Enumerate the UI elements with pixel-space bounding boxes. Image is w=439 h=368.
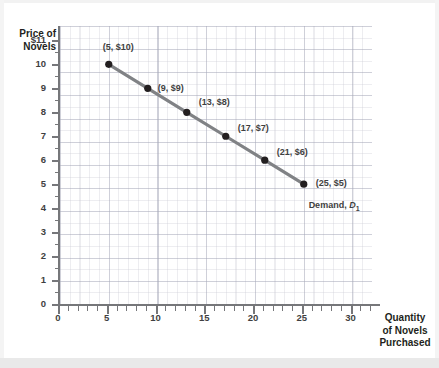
y-tick-label: 9 bbox=[2, 84, 46, 94]
x-tick-label: 30 bbox=[331, 313, 371, 323]
y-tick-minor bbox=[55, 172, 60, 173]
x-tick-minor bbox=[331, 306, 332, 311]
y-tick-major bbox=[52, 208, 60, 210]
data-point-label: (5, $10) bbox=[103, 43, 134, 52]
y-tick-label: 2 bbox=[2, 251, 46, 261]
x-tick-minor bbox=[273, 306, 274, 311]
x-tick-minor bbox=[370, 306, 371, 311]
y-tick-minor bbox=[55, 52, 60, 53]
y-tick-label: 4 bbox=[2, 203, 46, 213]
demand-curve-figure: Price of Novels Quantity of Novels Purch… bbox=[0, 0, 439, 368]
data-point-marker bbox=[183, 109, 190, 116]
data-point-marker bbox=[105, 61, 112, 68]
y-tick-major bbox=[52, 136, 60, 138]
y-tick-major bbox=[52, 256, 60, 258]
data-point-label: (9, $9) bbox=[158, 84, 184, 93]
data-point-marker bbox=[261, 157, 268, 164]
y-tick-major bbox=[52, 40, 60, 42]
y-tick-label: 3 bbox=[2, 227, 46, 237]
y-tick-minor bbox=[55, 196, 60, 197]
data-point-marker bbox=[300, 181, 307, 188]
x-tick-minor bbox=[282, 306, 283, 311]
x-tick-minor bbox=[175, 306, 176, 311]
x-tick-minor bbox=[97, 306, 98, 311]
data-point-label: (21, $6) bbox=[277, 148, 308, 157]
y-tick-minor bbox=[55, 244, 60, 245]
x-tick-label: 15 bbox=[184, 313, 224, 323]
x-tick-label: 20 bbox=[233, 313, 273, 323]
y-axis-tick-labels: 012345678910$11 bbox=[0, 26, 46, 306]
y-tick-label: 0 bbox=[2, 299, 46, 309]
y-tick-major bbox=[52, 88, 60, 90]
y-tick-major bbox=[52, 184, 60, 186]
demand-line bbox=[109, 64, 304, 184]
x-tick-label: 10 bbox=[136, 313, 176, 323]
y-tick-label: $11 bbox=[2, 36, 46, 46]
y-tick-label: 7 bbox=[2, 131, 46, 141]
x-tick-minor bbox=[117, 306, 118, 311]
x-tick-minor bbox=[321, 306, 322, 311]
x-tick-minor bbox=[214, 306, 215, 311]
y-tick-minor bbox=[55, 148, 60, 149]
y-tick-minor bbox=[55, 76, 60, 77]
x-tick-minor bbox=[87, 306, 88, 311]
page-edge-top bbox=[0, 0, 439, 3]
demand-series bbox=[60, 26, 372, 304]
x-tick-minor bbox=[224, 306, 225, 311]
y-tick-major bbox=[52, 112, 60, 114]
x-tick-minor bbox=[341, 306, 342, 311]
x-tick-minor bbox=[243, 306, 244, 311]
y-tick-major bbox=[52, 232, 60, 234]
x-tick-minor bbox=[360, 306, 361, 311]
y-tick-minor bbox=[55, 292, 60, 293]
data-point-label: (13, $8) bbox=[199, 98, 230, 107]
x-tick-minor bbox=[185, 306, 186, 311]
x-tick-label: 0 bbox=[38, 313, 78, 323]
x-tick-minor bbox=[146, 306, 147, 311]
page-edge-bottom bbox=[0, 358, 439, 368]
y-tick-label: 10 bbox=[2, 60, 46, 70]
y-axis-ticks bbox=[48, 26, 60, 306]
y-tick-minor bbox=[55, 100, 60, 101]
x-tick-minor bbox=[263, 306, 264, 311]
x-tick-minor bbox=[234, 306, 235, 311]
x-tick-minor bbox=[312, 306, 313, 311]
x-tick-minor bbox=[126, 306, 127, 311]
x-tick-minor bbox=[68, 306, 69, 311]
y-tick-label: 6 bbox=[2, 155, 46, 165]
x-tick-label: 5 bbox=[87, 313, 127, 323]
data-point-marker bbox=[222, 133, 229, 140]
x-tick-label: 25 bbox=[282, 313, 322, 323]
y-tick-label: 1 bbox=[2, 275, 46, 285]
x-tick-minor bbox=[292, 306, 293, 311]
data-point-label: (25, $5) bbox=[316, 179, 347, 188]
data-point-marker bbox=[144, 85, 151, 92]
data-point-label: (17, $7) bbox=[238, 124, 269, 133]
x-axis-tick-labels: 051015202530 bbox=[58, 313, 388, 327]
x-tick-minor bbox=[78, 306, 79, 311]
x-axis-title-line-3: Purchased bbox=[372, 337, 438, 350]
y-tick-minor bbox=[55, 268, 60, 269]
y-tick-major bbox=[52, 160, 60, 162]
y-tick-minor bbox=[55, 220, 60, 221]
y-tick-label: 5 bbox=[2, 179, 46, 189]
demand-curve-annotation: Demand, D1 bbox=[309, 201, 360, 212]
y-tick-minor bbox=[55, 124, 60, 125]
x-tick-minor bbox=[195, 306, 196, 311]
x-tick-minor bbox=[136, 306, 137, 311]
y-tick-major bbox=[52, 64, 60, 66]
plot-area bbox=[60, 26, 372, 304]
y-tick-major bbox=[52, 280, 60, 282]
x-tick-minor bbox=[165, 306, 166, 311]
y-tick-label: 8 bbox=[2, 108, 46, 118]
